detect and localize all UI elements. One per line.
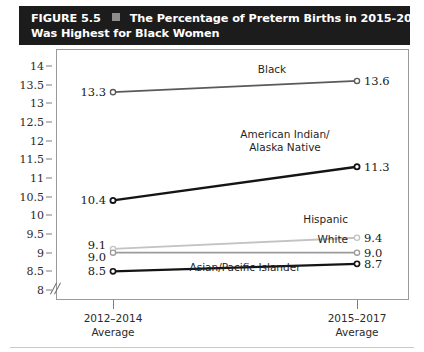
value-label-asian-pacific-right: 8.7 (364, 257, 382, 271)
y-axis-tick-mark (46, 215, 52, 216)
value-label-aian-right: 11.3 (364, 160, 390, 174)
page-divider (10, 347, 414, 348)
y-axis-tick-mark (46, 178, 52, 179)
value-label-aian-left: 10.4 (80, 193, 106, 207)
y-axis-tick-label: 9.5 (27, 228, 45, 241)
y-axis-tick-mark (46, 122, 52, 123)
value-label-black-right: 13.6 (364, 74, 390, 88)
series-label-american-indian-alaska-native: American Indian/Alaska Native (240, 128, 329, 154)
series-label-line: Alaska Native (240, 141, 329, 154)
value-label-hispanic-right: 9.4 (364, 231, 382, 245)
y-axis-tick-mark (46, 234, 52, 235)
x-axis-tick-label: 2012–2014Average (84, 311, 143, 339)
square-bullet-icon (112, 13, 120, 21)
series-label-line: Asian/Pacific Islander (190, 261, 301, 274)
y-axis-tick-mark (46, 66, 52, 67)
y-axis-tick-label: 9 (37, 246, 44, 259)
y-axis-tick-label: 11.5 (20, 153, 45, 166)
figure-title-line-2: Was Highest for Black Women (31, 26, 400, 41)
y-axis-tick-mark (46, 103, 52, 104)
y-axis-tick-label: 13 (30, 97, 44, 110)
y-axis-tick-label: 11 (30, 172, 44, 185)
series-label-black: Black (258, 63, 286, 76)
figure-number: FIGURE 5.5 (31, 12, 101, 25)
y-axis-tick-mark (46, 196, 52, 197)
series-label-line: Hispanic (303, 213, 348, 226)
x-axis-tick-mark (113, 300, 114, 309)
value-label-asian-pacific-left: 8.5 (88, 264, 106, 278)
y-axis-tick-mark (46, 140, 52, 141)
y-axis-tick-label: 8 (37, 284, 44, 297)
series-label-line: Black (258, 63, 286, 76)
value-label-black-left: 13.3 (80, 85, 106, 99)
y-axis-tick-mark (46, 84, 52, 85)
y-axis-tick-label: 12 (30, 134, 44, 147)
x-axis-tick-label-period: 2015–2017 (328, 311, 387, 325)
figure-container: FIGURE 5.5The Percentage of Preterm Birt… (0, 0, 424, 352)
series-label-asian-pacific-islander: Asian/Pacific Islander (190, 261, 301, 274)
y-axis-tick-mark (46, 271, 52, 272)
figure-title-bar: FIGURE 5.5The Percentage of Preterm Birt… (19, 6, 410, 45)
x-axis-tick-label-period: 2012–2014 (84, 311, 143, 325)
series-label-line: American Indian/ (240, 128, 329, 141)
value-label-white-left: 9.0 (88, 250, 106, 264)
x-axis-tick-mark (357, 300, 358, 309)
x-axis-tick-label-average: Average (84, 325, 143, 339)
y-axis-tick-mark (46, 252, 52, 253)
series-label-line: White (317, 233, 348, 246)
y-axis: 1413.51312.51211.51110.5109.598.58 (0, 49, 52, 300)
x-axis-tick-label-average: Average (328, 325, 387, 339)
figure-title-line-1: FIGURE 5.5The Percentage of Preterm Birt… (31, 11, 400, 26)
y-axis-tick-label: 10.5 (20, 190, 45, 203)
figure-title-text-1: The Percentage of Preterm Births in 2015… (130, 12, 424, 25)
y-axis-tick-label: 13.5 (20, 78, 45, 91)
x-axis-tick-label: 2015–2017Average (328, 311, 387, 339)
y-axis-tick-label: 14 (30, 60, 44, 73)
series-label-hispanic: Hispanic (303, 213, 348, 226)
y-axis-tick-label: 10 (30, 209, 44, 222)
axis-break-icon (49, 281, 63, 301)
y-axis-tick-label: 12.5 (20, 116, 45, 129)
series-label-white: White (317, 233, 348, 246)
y-axis-tick-mark (46, 159, 52, 160)
y-axis-tick-label: 8.5 (27, 265, 45, 278)
